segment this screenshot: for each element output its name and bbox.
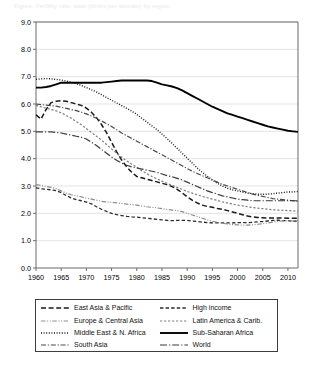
x-tick-label: 1990 [179, 273, 195, 282]
legend-swatch-middle_east_n_africa [40, 329, 70, 337]
plot-frame [36, 22, 298, 268]
chart-legend: East Asia & PacificHigh incomeEurope & C… [35, 299, 278, 352]
legend-label-latin_america_carib: Latin America & Carib. [193, 317, 263, 325]
fertility-rate-chart-figure: Figure: Fertility rate, total (births pe… [0, 0, 322, 370]
y-tick-label: 7.0 [21, 72, 31, 81]
y-tick-label: 9.0 [21, 18, 31, 27]
x-tick-label: 1985 [154, 273, 170, 282]
legend-item-high_income[interactable]: High income [159, 302, 278, 314]
legend-label-world: World [193, 341, 211, 349]
y-tick-label: 8.0 [21, 45, 31, 54]
legend-swatch-latin_america_carib [159, 317, 189, 325]
line-chart-svg: 0.01.02.03.04.05.06.07.08.09.0 196019651… [0, 14, 322, 294]
plot-area-container: 0.01.02.03.04.05.06.07.08.09.0 196019651… [0, 14, 322, 294]
legend-item-south_asia[interactable]: South Asia [40, 339, 159, 351]
x-tick-label: 2005 [255, 273, 271, 282]
legend-label-high_income: High income [193, 304, 232, 312]
series-line-sub_saharan_africa [36, 80, 298, 131]
x-tick-label: 2010 [280, 273, 296, 282]
legend-label-middle_east_n_africa: Middle East & N. Africa [74, 329, 146, 337]
legend-item-east_asia_pacific[interactable]: East Asia & Pacific [40, 302, 159, 314]
legend-label-east_asia_pacific: East Asia & Pacific [74, 304, 132, 312]
legend-item-latin_america_carib[interactable]: Latin America & Carib. [159, 314, 278, 326]
legend-item-world[interactable]: World [159, 339, 278, 351]
x-tick-label: 1960 [28, 273, 44, 282]
y-tick-label: 1.0 [21, 236, 31, 245]
y-axis-tick-labels: 0.01.02.03.04.05.06.07.08.09.0 [21, 18, 31, 273]
x-tick-label: 2000 [230, 273, 246, 282]
series-line-world [36, 132, 298, 201]
y-tick-label: 4.0 [21, 154, 31, 163]
x-tick-label: 1980 [129, 273, 145, 282]
x-tick-label: 1970 [78, 273, 94, 282]
legend-item-middle_east_n_africa[interactable]: Middle East & N. Africa [40, 327, 159, 339]
x-axis-tick-labels: 1960196519701975198019851990199520002005… [28, 273, 296, 282]
x-tick-label: 1995 [204, 273, 220, 282]
series-line-south_asia [36, 104, 298, 201]
legend-swatch-sub_saharan_africa [159, 329, 189, 337]
legend-swatch-high_income [159, 304, 189, 312]
y-tick-label: 2.0 [21, 209, 31, 218]
legend-label-sub_saharan_africa: Sub-Saharan Africa [193, 329, 254, 337]
x-tick-label: 1965 [53, 273, 69, 282]
legend-swatch-europe_central_asia [40, 317, 70, 325]
figure-caption: Figure: Fertility rate, total (births pe… [14, 0, 314, 12]
data-series-group [36, 79, 298, 226]
legend-item-sub_saharan_africa[interactable]: Sub-Saharan Africa [159, 327, 278, 339]
x-tick-label: 1975 [104, 273, 120, 282]
legend-item-europe_central_asia[interactable]: Europe & Central Asia [40, 314, 159, 326]
series-line-europe_central_asia [36, 185, 298, 225]
y-tick-label: 5.0 [21, 127, 31, 136]
legend-label-south_asia: South Asia [74, 341, 107, 349]
y-tick-label: 0.0 [21, 264, 31, 273]
legend-swatch-world [159, 341, 189, 349]
legend-grid: East Asia & PacificHigh incomeEurope & C… [36, 300, 277, 351]
y-tick-label: 6.0 [21, 100, 31, 109]
y-tick-label: 3.0 [21, 182, 31, 191]
legend-swatch-south_asia [40, 341, 70, 349]
legend-swatch-east_asia_pacific [40, 304, 70, 312]
legend-label-europe_central_asia: Europe & Central Asia [74, 317, 143, 325]
